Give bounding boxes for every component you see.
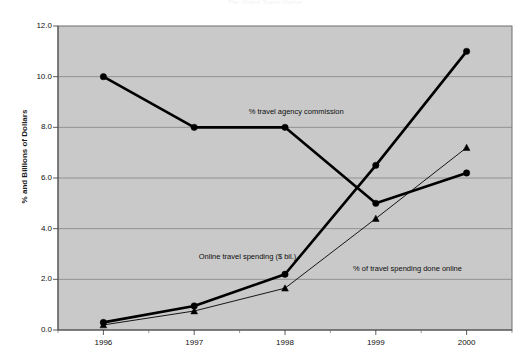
- data-point-marker-circle: [191, 124, 197, 130]
- plot-area: [0, 0, 531, 361]
- data-point-marker-circle: [100, 73, 106, 79]
- data-point-marker-circle: [463, 170, 469, 176]
- data-point-marker-circle: [373, 162, 379, 168]
- data-point-marker-circle: [463, 48, 469, 54]
- data-point-marker-circle: [282, 271, 288, 277]
- chart-figure: The Online Travel Market % and Billions …: [0, 0, 531, 361]
- data-point-marker-circle: [282, 124, 288, 130]
- series-annotation-2: % of travel spending done online: [353, 264, 462, 273]
- series-annotation-1: Online travel spending ($ bil.): [199, 252, 297, 261]
- data-point-marker-circle: [373, 200, 379, 206]
- series-annotation-0: % travel agency commission: [249, 107, 344, 116]
